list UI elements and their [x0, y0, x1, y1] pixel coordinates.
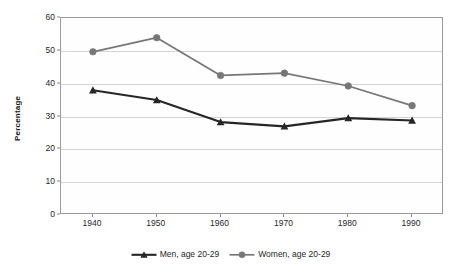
x-axis-tick-labels: 194019501960197019801990 [60, 219, 443, 233]
legend-circle-marker-icon [229, 249, 255, 260]
y-axis-tick-label: 30 [33, 111, 55, 120]
series-1 [89, 86, 416, 129]
x-axis-tick-mark [283, 214, 284, 217]
data-point-marker [217, 72, 224, 79]
data-point-marker [90, 49, 97, 56]
x-axis-tick-mark [347, 214, 348, 217]
x-axis-tick-label: 1940 [82, 219, 101, 228]
y-axis-title: Percentage [10, 78, 24, 158]
data-point-marker [281, 70, 288, 77]
x-axis-tick-label: 1960 [210, 219, 229, 228]
y-axis-tick-label: 50 [33, 46, 55, 55]
x-axis-tick-mark [220, 214, 221, 217]
x-axis-tick-label: 1990 [402, 219, 421, 228]
x-axis-tick-label: 1980 [338, 219, 357, 228]
x-axis-tick-label: 1970 [274, 219, 293, 228]
series-line [93, 38, 412, 106]
x-axis-tick-mark [92, 214, 93, 217]
legend-entry: Men, age 20-29 [131, 249, 220, 260]
plot-area [60, 17, 443, 214]
y-axis-tick-label: 0 [33, 210, 55, 219]
legend-triangle-marker-icon [131, 249, 157, 260]
series-layer [61, 18, 444, 215]
x-axis-tick-mark [156, 214, 157, 217]
y-axis-tick-label: 20 [33, 144, 55, 153]
data-point-marker [153, 34, 160, 41]
data-point-marker [409, 102, 416, 109]
legend-entry: Women, age 20-29 [229, 249, 330, 260]
x-axis-tick-mark [411, 214, 412, 217]
legend-label: Men, age 20-29 [160, 250, 220, 259]
chart-legend: Men, age 20-29Women, age 20-29 [0, 249, 461, 260]
legend-label: Women, age 20-29 [258, 250, 330, 259]
data-point-marker [345, 83, 352, 90]
y-axis-tick-label: 10 [33, 177, 55, 186]
series-line [93, 90, 412, 126]
x-axis-tick-label: 1950 [146, 219, 165, 228]
y-axis-tick-label: 40 [33, 78, 55, 87]
chart-screenshot: Percentage 0102030405060 194019501960197… [0, 0, 461, 274]
x-axis-tick-marks [60, 214, 443, 218]
y-axis-tick-label: 60 [33, 13, 55, 22]
y-axis-tick-labels: 0102030405060 [33, 17, 55, 214]
